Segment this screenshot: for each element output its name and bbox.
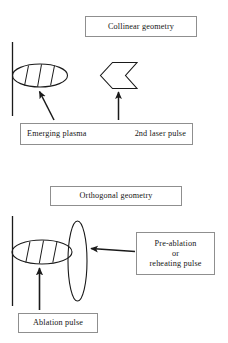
emerging-plasma-label: Emerging plasma	[27, 129, 87, 139]
diagram-vector-layer	[0, 0, 228, 343]
collinear-legend-box: Emerging plasma 2nd laser pulse	[20, 123, 193, 145]
hatched-horizontal-ellipse-icon-orthogonal	[12, 240, 72, 264]
left-pointing-chevron-icon	[101, 63, 138, 89]
collinear-title-box: Collinear geometry	[85, 16, 197, 37]
orthogonal-title-box: Orthogonal geometry	[50, 186, 182, 206]
figure-canvas: Collinear geometry Emerging plasma 2nd l…	[0, 0, 228, 343]
ablation-pulse-box: Ablation pulse	[18, 313, 98, 333]
pre-ablation-label-line-3: reheating pulse	[149, 259, 201, 269]
pre-ablation-label-line-1: Pre-ablation	[155, 239, 197, 249]
orthogonal-panel-graphics	[12, 216, 135, 310]
hatched-horizontal-ellipse-icon-collinear	[13, 64, 68, 87]
collinear-panel-graphics	[13, 42, 138, 120]
diagonal-arrow-up-left-icon	[40, 92, 55, 121]
collinear-title-text: Collinear geometry	[108, 22, 174, 32]
orthogonal-title-text: Orthogonal geometry	[79, 191, 152, 201]
ablation-pulse-label: Ablation pulse	[33, 318, 83, 328]
horizontal-arrow-left-icon	[91, 249, 135, 252]
pre-ablation-pulse-box: Pre-ablation or reheating pulse	[136, 232, 215, 275]
pre-ablation-label-line-2: or	[172, 249, 179, 259]
vertical-ellipse-icon	[68, 221, 87, 301]
second-laser-pulse-label: 2nd laser pulse	[135, 129, 186, 139]
